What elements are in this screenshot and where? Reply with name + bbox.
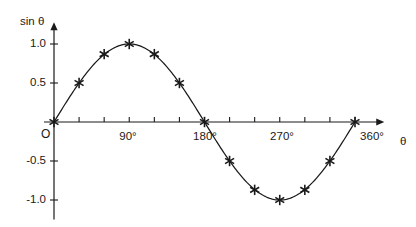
y-tick-label-1: 1.0 <box>10 38 46 50</box>
origin-label: O <box>41 128 50 140</box>
y-tick-label-2: 0.5 <box>10 77 46 89</box>
x-tick-label-360: 360° <box>348 131 396 143</box>
x-tick-label-270: 270° <box>258 131 306 143</box>
y-axis-title: sin θ <box>20 16 44 28</box>
y-tick-label-4: -1.0 <box>10 194 46 206</box>
sine-curve-chart: sin θ θ O 1.0 0.5 -0.5 -1.0 90° 180° 270… <box>0 0 416 227</box>
x-axis-title: θ <box>400 136 406 148</box>
x-tick-label-90: 90° <box>104 131 152 143</box>
chart-plot-area <box>0 0 416 227</box>
y-tick-label-3: -0.5 <box>10 155 46 167</box>
x-tick-label-180: 180° <box>181 131 229 143</box>
